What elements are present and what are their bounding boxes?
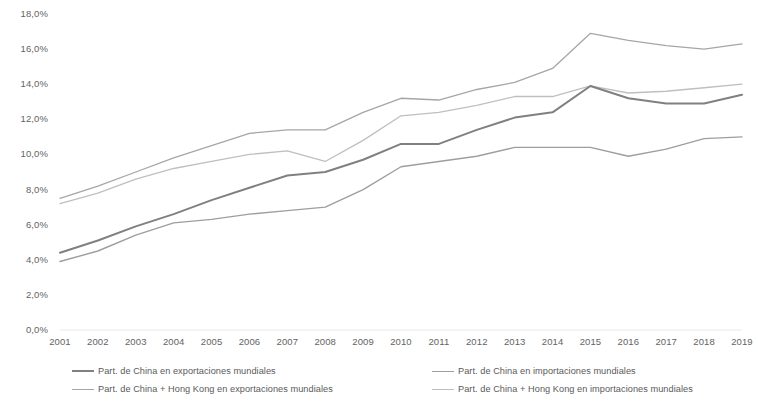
x-axis-tick-label: 2003: [116, 336, 156, 348]
x-axis-tick-label: 2009: [343, 336, 383, 348]
x-axis-tick-label: 2005: [192, 336, 232, 348]
legend-item[interactable]: Part. de China en importaciones mundiale…: [432, 364, 636, 378]
plot-area: [0, 0, 758, 345]
x-axis-tick-label: 2014: [533, 336, 573, 348]
x-axis-tick-label: 2001: [40, 336, 80, 348]
x-axis-tick-label: 2016: [608, 336, 648, 348]
legend-line-swatch: [432, 371, 454, 372]
y-axis-tick-label: 4,0%: [4, 255, 48, 265]
legend-item[interactable]: Part. de China + Hong Kong en importacio…: [432, 382, 693, 396]
x-axis-tick-label: 2007: [267, 336, 307, 348]
x-axis-tick-label: 2018: [684, 336, 724, 348]
y-axis-tick-label: 10,0%: [4, 149, 48, 159]
legend-item[interactable]: Part. de China en exportaciones mundiale…: [72, 364, 276, 378]
legend-label: Part. de China en exportaciones mundiale…: [98, 366, 276, 377]
legend-line-swatch: [72, 370, 94, 372]
legend-label: Part. de China + Hong Kong en importacio…: [458, 384, 693, 395]
legend-label: Part. de China en importaciones mundiale…: [458, 366, 636, 377]
x-axis-tick-label: 2004: [154, 336, 194, 348]
y-axis-tick-label: 14,0%: [4, 79, 48, 89]
y-axis-tick-label: 2,0%: [4, 290, 48, 300]
y-axis-labels: 0,0%2,0%4,0%6,0%8,0%10,0%12,0%14,0%16,0%…: [0, 0, 48, 345]
x-axis-tick-label: 2013: [495, 336, 535, 348]
y-axis-tick-label: 0,0%: [4, 325, 48, 335]
x-axis-tick-label: 2011: [419, 336, 459, 348]
legend-line-swatch: [432, 389, 454, 390]
y-axis-tick-label: 18,0%: [4, 9, 48, 19]
x-axis-tick-label: 2017: [646, 336, 686, 348]
y-axis-tick-label: 16,0%: [4, 44, 48, 54]
y-axis-tick-label: 8,0%: [4, 185, 48, 195]
x-axis-tick-label: 2010: [381, 336, 421, 348]
legend-label: Part. de China + Hong Kong en exportacio…: [98, 384, 333, 395]
x-axis-tick-label: 2012: [457, 336, 497, 348]
x-axis-tick-label: 2015: [570, 336, 610, 348]
x-axis-tick-label: 2019: [722, 336, 758, 348]
x-axis-tick-label: 2006: [229, 336, 269, 348]
series-line: [60, 86, 742, 253]
chart-legend: Part. de China en exportaciones mundiale…: [0, 362, 758, 408]
x-axis-tick-label: 2002: [78, 336, 118, 348]
legend-item[interactable]: Part. de China + Hong Kong en exportacio…: [72, 382, 333, 396]
line-chart: 0,0%2,0%4,0%6,0%8,0%10,0%12,0%14,0%16,0%…: [0, 0, 758, 410]
y-axis-tick-label: 6,0%: [4, 220, 48, 230]
x-axis-labels: 2001200220032004200520062007200820092010…: [0, 336, 758, 352]
series-line: [60, 137, 742, 262]
plot-canvas: [0, 0, 758, 345]
y-axis-tick-label: 12,0%: [4, 114, 48, 124]
legend-line-swatch: [72, 389, 94, 390]
x-axis-tick-label: 2008: [305, 336, 345, 348]
